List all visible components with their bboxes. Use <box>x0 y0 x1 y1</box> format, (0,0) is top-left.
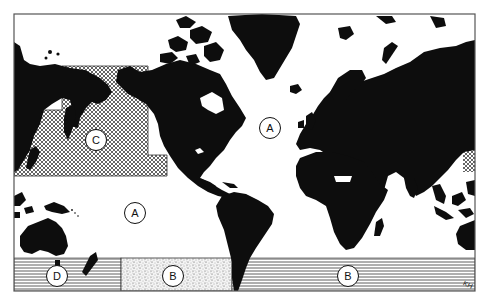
zone-label-a-atlantic: A <box>259 117 281 139</box>
zone-label-a-pacific: A <box>124 202 146 224</box>
zone-c-crosshatch-east <box>463 150 475 172</box>
zone-label-d: D <box>46 265 68 287</box>
zone-label-b-stripes: B <box>337 265 359 287</box>
zone-label-c: C <box>85 129 107 151</box>
world-map <box>0 0 485 302</box>
zone-label-b-stipple: B <box>162 265 184 287</box>
